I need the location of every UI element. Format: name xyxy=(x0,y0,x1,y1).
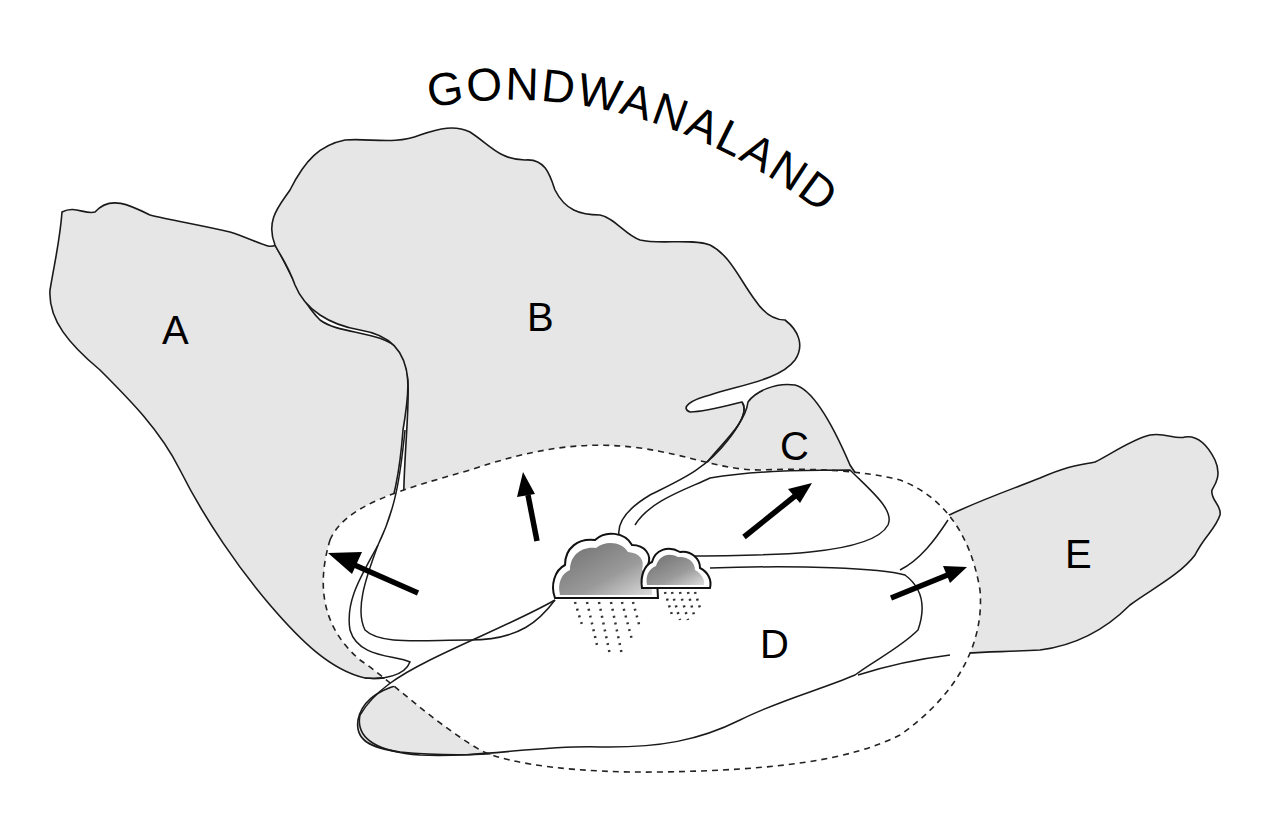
label-d: D xyxy=(760,622,789,666)
label-a: A xyxy=(162,308,189,352)
label-c: C xyxy=(780,424,809,468)
label-e: E xyxy=(1065,532,1092,576)
gondwanaland-diagram: GONDWANALAND xyxy=(0,0,1267,820)
label-b: B xyxy=(527,295,554,339)
